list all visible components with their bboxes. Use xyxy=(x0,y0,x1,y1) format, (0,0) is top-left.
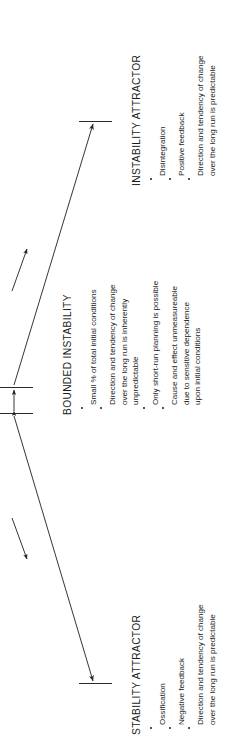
bullet-dot-icon xyxy=(188,178,190,180)
diagram-canvas: INSTABILITY ATTRACTOR Disintegration Pos… xyxy=(0,0,227,747)
bullet-stability-1: Ossification xyxy=(157,683,169,725)
bullet-instability-2: Positive feedback xyxy=(176,113,188,176)
bullet-bounded-2: Direction and tendency of change over th… xyxy=(107,284,142,405)
heading-instability-attractor: INSTABILITY ATTRACTOR xyxy=(131,55,143,186)
bullet-line: Negative feedback xyxy=(176,658,188,725)
bullet-stability-3: Direction and tendency of change over th… xyxy=(195,604,218,725)
heading-stability-attractor: STABILITY ATTRACTOR xyxy=(131,615,143,735)
bullet-instability-1: Disintegration xyxy=(157,127,169,177)
bullet-line: Direction and tendency of change xyxy=(107,284,119,405)
arrow-small-down xyxy=(12,518,27,559)
arrow-small-up xyxy=(12,249,27,291)
bullet-line: unpredictable xyxy=(130,284,142,405)
bullet-line: over the long run is predictable xyxy=(207,55,219,176)
bullet-line: Disintegration xyxy=(157,127,169,177)
bullet-line: over the long run is inherently xyxy=(119,284,131,405)
bullet-line: Ossification xyxy=(157,683,169,725)
bullet-line: Direction and tendency of change xyxy=(195,604,207,725)
bullet-dot-icon xyxy=(169,727,171,729)
bullet-line: due to sensitive dependence xyxy=(181,286,193,405)
bullet-dot-icon xyxy=(81,407,83,409)
bullet-dot-icon xyxy=(150,178,152,180)
arrow-toward-stability xyxy=(14,416,93,681)
bullet-line: Small % of total initial conditions xyxy=(88,289,100,405)
bullet-line: Cause and effect unmeasureable xyxy=(169,286,181,405)
bullet-stability-2: Negative feedback xyxy=(176,658,188,725)
bullet-line: Only short-run planning is possible xyxy=(150,281,162,405)
bullet-line: Positive feedback xyxy=(176,113,188,176)
bullet-dot-icon xyxy=(169,178,171,180)
bullet-line: Direction and tendency of change xyxy=(195,55,207,176)
bullet-dot-icon xyxy=(162,407,164,409)
bullet-line: over the long run is predictable xyxy=(207,604,219,725)
bullet-dot-icon xyxy=(100,407,102,409)
arrow-toward-instability xyxy=(14,124,93,385)
bullet-bounded-4: Cause and effect unmeasureable due to se… xyxy=(169,286,204,405)
bullet-line: upon initial conditions xyxy=(192,286,204,405)
heading-bounded-instability: BOUNDED INSTABILITY xyxy=(62,294,74,415)
bullet-dot-icon xyxy=(188,727,190,729)
bullet-instability-3: Direction and tendency of change over th… xyxy=(195,55,218,176)
bullet-dot-icon xyxy=(150,727,152,729)
bullet-bounded-1: Small % of total initial conditions xyxy=(88,289,100,405)
bullet-bounded-3: Only short-run planning is possible xyxy=(150,281,162,405)
bullet-dot-icon xyxy=(143,407,145,409)
